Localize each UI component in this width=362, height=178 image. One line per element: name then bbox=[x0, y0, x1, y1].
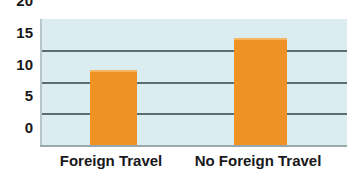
bar-chart-figure: 20 15 10 5 0 Foreign Travel No Foreign T… bbox=[0, 0, 362, 178]
y-axis-tick-label-15: 15 bbox=[0, 24, 33, 39]
x-axis-category-labels: Foreign Travel No Foreign Travel bbox=[40, 150, 345, 176]
bar-foreign-travel bbox=[90, 70, 137, 146]
x-axis-line bbox=[40, 145, 347, 147]
x-axis-label-foreign-travel: Foreign Travel bbox=[60, 150, 163, 172]
gridline-15 bbox=[42, 50, 347, 52]
y-axis-tick-label-0: 0 bbox=[0, 120, 33, 135]
y-axis: 20 15 10 5 0 bbox=[0, 0, 38, 152]
y-axis-tick-label-10: 10 bbox=[0, 56, 33, 71]
x-axis-label-no-foreign-travel: No Foreign Travel bbox=[195, 150, 322, 172]
gridline-10 bbox=[42, 82, 347, 84]
bar-no-foreign-travel bbox=[234, 38, 287, 146]
plot-area bbox=[40, 19, 347, 146]
y-axis-tick-label-5: 5 bbox=[0, 88, 33, 103]
gridline-5 bbox=[42, 113, 347, 115]
bar-top-highlight bbox=[234, 38, 287, 40]
y-axis-tick-label-20: 20 bbox=[0, 0, 33, 8]
bar-top-highlight bbox=[90, 70, 137, 72]
